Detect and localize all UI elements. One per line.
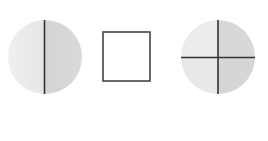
square [103, 32, 150, 81]
quarter-top-right [218, 20, 255, 57]
circle-halves-right [44, 20, 82, 94]
figure-canvas [0, 0, 268, 141]
circle-halves [8, 20, 82, 94]
circle-quarters [181, 20, 255, 94]
circle-halves-left [8, 20, 44, 94]
quarter-bottom-right [218, 57, 255, 94]
quarter-bottom-left [181, 57, 218, 94]
quarter-top-left [181, 20, 218, 57]
